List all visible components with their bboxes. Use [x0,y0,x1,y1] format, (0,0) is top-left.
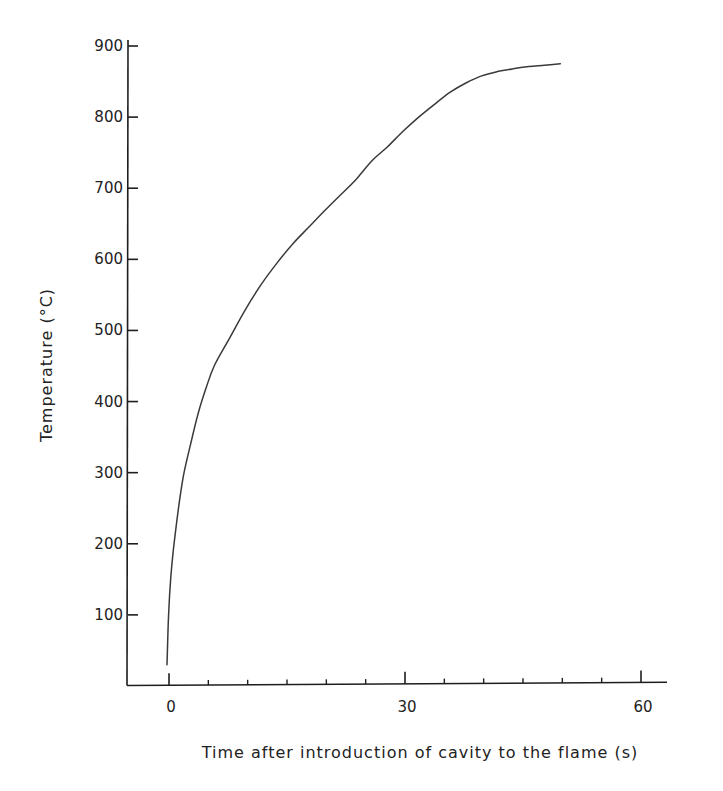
x-tick-label: 0 [166,698,176,716]
y-tick-label: 500 [94,321,123,339]
y-tick-label: 200 [94,535,123,553]
y-tick-label: 300 [94,464,123,482]
y-tick-label: 400 [94,393,123,411]
temperature-curve [167,64,560,665]
y-axis-title: Temperature (°C) [37,288,56,443]
plot-area [167,64,560,665]
chart-canvas: 10020030040050060070080090003060 Tempera… [0,0,723,791]
y-axis-line [127,40,128,686]
y-tick-label: 100 [94,606,123,624]
y-tick-label: 900 [94,37,123,55]
x-tick-label: 30 [397,698,416,716]
x-axis-title: Time after introduction of cavity to the… [201,743,638,762]
y-tick-label: 700 [94,179,123,197]
x-tick-label: 60 [633,698,652,716]
y-tick-label: 800 [94,108,123,126]
tick-labels: 10020030040050060070080090003060 [94,37,652,716]
y-tick-label: 600 [94,250,123,268]
chart: 10020030040050060070080090003060 Tempera… [0,0,723,791]
